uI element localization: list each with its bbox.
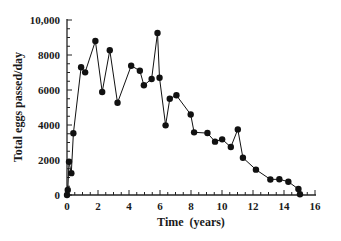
data-point-marker — [187, 111, 193, 117]
data-point-marker — [204, 130, 210, 136]
data-point-marker — [107, 47, 113, 53]
y-tick-label: 2000 — [38, 154, 61, 166]
data-point-marker — [276, 176, 282, 182]
data-point-marker — [219, 136, 225, 142]
data-point-marker — [253, 166, 259, 172]
y-tick-label: 0 — [55, 189, 61, 201]
data-point-marker — [128, 62, 134, 68]
data-point-marker — [156, 75, 162, 81]
x-tick-label: 16 — [310, 200, 322, 212]
data-point-marker — [65, 187, 71, 193]
data-point-marker — [66, 159, 72, 165]
data-point-marker — [114, 100, 120, 106]
x-tick-label: 4 — [126, 200, 132, 212]
x-axis: 0246810121416 — [64, 190, 321, 212]
data-point-marker — [68, 170, 74, 176]
data-point-marker — [148, 76, 154, 82]
data-point-marker — [99, 89, 105, 95]
y-tick-label: 6000 — [38, 84, 61, 96]
x-tick-label: 6 — [157, 200, 163, 212]
data-point-marker — [154, 30, 160, 36]
data-series — [64, 30, 303, 198]
data-point-marker — [162, 122, 168, 128]
y-axis: 0200040006000800010,000 — [30, 14, 72, 201]
data-point-marker — [228, 144, 234, 150]
data-point-marker — [191, 129, 197, 135]
x-tick-label: 8 — [188, 200, 194, 212]
y-axis-title: Total eggs passed/day — [11, 52, 25, 162]
x-axis-title: Time (years) — [157, 215, 225, 229]
x-tick-label: 12 — [248, 200, 260, 212]
y-tick-label: 10,000 — [30, 14, 61, 26]
data-point-marker — [70, 130, 76, 136]
y-tick-label: 4000 — [38, 119, 61, 131]
x-tick-label: 0 — [64, 200, 70, 212]
data-point-marker — [167, 96, 173, 102]
x-tick-label: 2 — [95, 200, 101, 212]
data-point-marker — [212, 138, 218, 144]
data-point-marker — [285, 179, 291, 185]
data-point-marker — [235, 126, 241, 132]
data-point-marker — [173, 92, 179, 98]
x-tick-label: 14 — [279, 200, 291, 212]
y-tick-label: 8000 — [38, 49, 61, 61]
x-tick-label: 10 — [217, 200, 229, 212]
chart: 0200040006000800010,000 0246810121416 To… — [0, 0, 341, 241]
data-point-marker — [137, 68, 143, 74]
data-point-marker — [82, 69, 88, 75]
data-point-marker — [78, 64, 84, 70]
data-point-marker — [92, 38, 98, 44]
data-point-marker — [141, 82, 147, 88]
line-chart-svg: 0200040006000800010,000 0246810121416 To… — [0, 0, 341, 241]
data-point-marker — [297, 191, 303, 197]
series-line — [67, 33, 300, 195]
data-point-marker — [240, 155, 246, 161]
data-point-marker — [267, 176, 273, 182]
